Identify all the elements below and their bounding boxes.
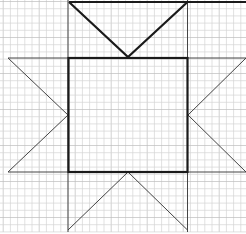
graph-paper-diagram bbox=[0, 0, 246, 234]
